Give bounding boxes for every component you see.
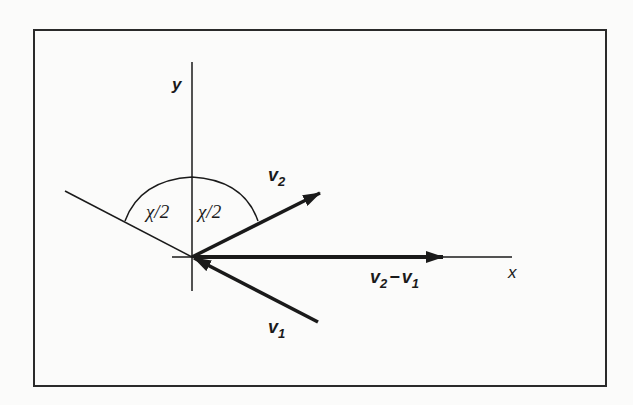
symmetric-line: [65, 191, 192, 257]
vector-v2-minus-v1-label: v2−v1: [370, 267, 419, 291]
angle-label-right: χ/2: [196, 201, 222, 222]
vector-v1: [194, 258, 318, 322]
vector-v2-label: v2: [268, 165, 286, 189]
vector-v1-label: v1: [268, 317, 285, 341]
diagram-frame: [34, 30, 606, 386]
y-axis-label: y: [171, 75, 183, 94]
collision-diagram: y x χ/2 χ/2 v2 v1 v2−v1: [0, 0, 633, 405]
angle-label-left: χ/2: [144, 201, 170, 222]
x-axis-label: x: [507, 263, 517, 282]
